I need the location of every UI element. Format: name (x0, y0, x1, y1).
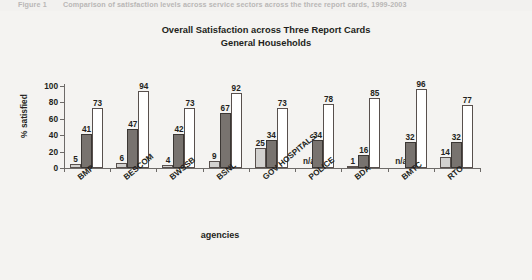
x-axis-tick (434, 168, 435, 172)
bar-value-label: 73 (185, 99, 194, 108)
chart-figure: Overall Satisfaction across Three Report… (0, 11, 532, 280)
x-axis-tick (64, 168, 65, 172)
x-axis-tick (388, 168, 389, 172)
bar-value-label: 41 (82, 125, 91, 134)
bar-value-label: 5 (73, 155, 78, 164)
bar: 25 (255, 148, 266, 169)
bar-value-label: 14 (441, 148, 450, 157)
bar-value-label: 16 (359, 146, 368, 155)
bar: 77 (462, 105, 473, 168)
bar-value-label: 77 (463, 96, 472, 105)
y-axis-tick-label: 20 (32, 148, 58, 156)
bar: 92 (231, 93, 242, 168)
bar-value-label: 32 (405, 133, 414, 142)
bar: 9 (209, 161, 220, 168)
bar-value-label: 94 (139, 82, 148, 91)
x-axis-tick (295, 168, 296, 172)
chart-subtitle: General Households (0, 37, 532, 50)
bar: 4 (162, 165, 173, 168)
bar: 5 (70, 164, 81, 168)
bar-value-label: 32 (452, 133, 461, 142)
y-axis-tick-label: 0 (32, 164, 58, 172)
figure-caption-number: Figure 1 (18, 0, 47, 9)
bar-value-label: 4 (166, 156, 171, 165)
bar-group: 96792 (203, 86, 249, 168)
bar: 85 (369, 98, 380, 168)
y-axis-tick (60, 119, 65, 120)
bar-group: 143277 (434, 86, 480, 168)
bar-group: n/a3296 (388, 86, 434, 168)
bar-value-label: 78 (324, 95, 333, 104)
bar-value-label: 42 (174, 125, 183, 134)
bar-group-bars: 44273 (156, 86, 208, 168)
y-axis-tick (60, 102, 65, 103)
y-axis-tick-label: 100 (32, 82, 58, 90)
y-axis-tick (60, 86, 65, 87)
bar-group: 54173 (64, 86, 110, 168)
bar-group: n/a3478 (295, 86, 341, 168)
y-axis-tick-label: 60 (32, 115, 58, 123)
bar-value-label: 25 (256, 139, 265, 148)
bar-not-available: n/a (394, 156, 405, 168)
y-axis-tick (60, 135, 65, 136)
bar-group-bars: n/a3296 (388, 86, 440, 168)
bar: 14 (440, 157, 451, 168)
bar: 32 (451, 142, 462, 168)
x-axis-tick (480, 168, 481, 172)
bar: 67 (220, 113, 231, 168)
bar-value-label: 73 (93, 99, 102, 108)
bar-group: 11685 (341, 86, 387, 168)
x-axis-title: agencies (0, 230, 440, 240)
bar-group-bars: 11685 (341, 86, 393, 168)
bar-group-bars: 54173 (64, 86, 116, 168)
bar-group-bars: 143277 (434, 86, 486, 168)
x-axis-tick (203, 168, 204, 172)
x-axis-tick (249, 168, 250, 172)
chart-title-line1: Overall Satisfaction across Three Report… (162, 25, 371, 35)
y-axis-tick-label: 80 (32, 98, 58, 106)
bar-group-bars: 64794 (110, 86, 162, 168)
x-axis-tick (110, 168, 111, 172)
bar-value-label: 47 (128, 120, 137, 129)
bar-value-label: 67 (221, 104, 230, 113)
figure-caption-text: Comparison of satisfaction levels across… (63, 0, 407, 9)
bar-value-label: 92 (232, 84, 241, 93)
bar-group-bars: n/a3478 (295, 86, 347, 168)
plot-area: 54173647944427396792253473n/a347811685n/… (64, 86, 480, 168)
bar-value-label: 96 (416, 80, 425, 89)
x-axis-tick (341, 168, 342, 172)
bar-not-available: n/a (301, 156, 312, 168)
x-axis-tick (156, 168, 157, 172)
bar-value-label: 9 (212, 152, 217, 161)
bar-group: 44273 (156, 86, 202, 168)
chart-title: Overall Satisfaction across Three Report… (0, 24, 532, 49)
bar-value-label: 34 (267, 131, 276, 140)
figure-caption-strip: Figure 1 Comparison of satisfaction leve… (0, 0, 532, 11)
y-axis-tick-label: 40 (32, 131, 58, 139)
bar-value-label: 85 (370, 89, 379, 98)
bar-group-bars: 96792 (203, 86, 255, 168)
bar: 96 (416, 89, 427, 168)
bar: 6 (116, 163, 127, 168)
bar-value-label: 1 (351, 157, 356, 166)
bar: 73 (92, 108, 103, 168)
bar-value-label: 6 (119, 154, 124, 163)
y-axis-tick (60, 152, 65, 153)
bar-value-label: 73 (278, 99, 287, 108)
bar: 1 (347, 166, 358, 168)
